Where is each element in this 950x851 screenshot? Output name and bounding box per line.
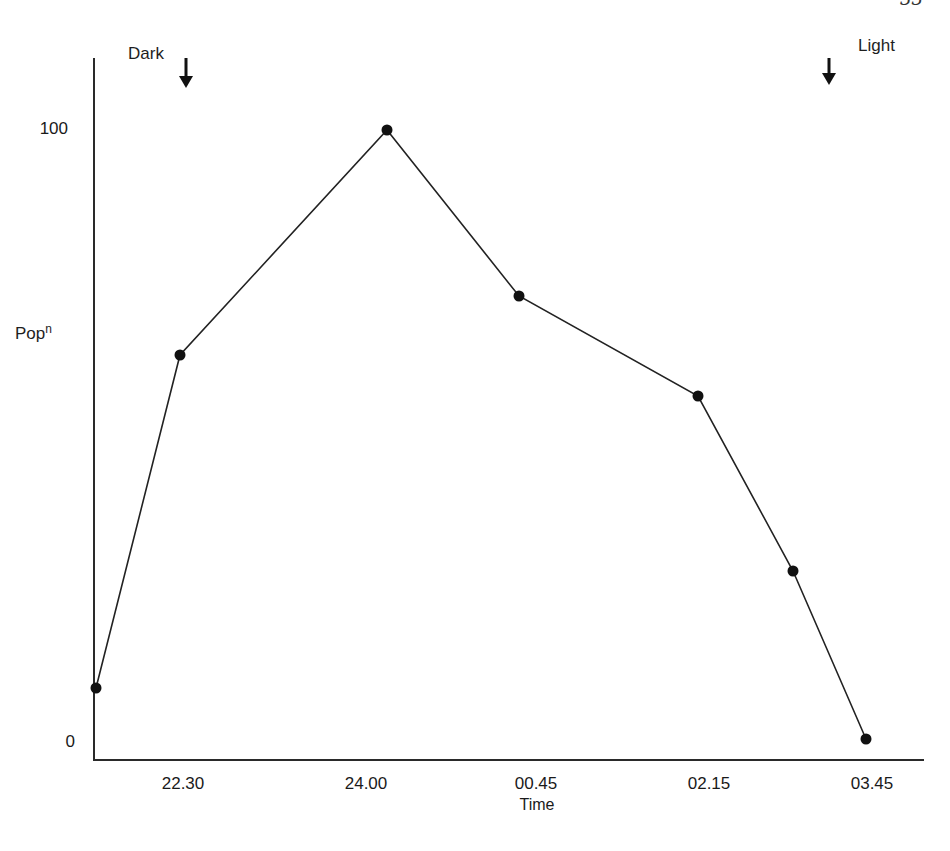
- annotation-dark: Dark: [128, 44, 164, 64]
- x-axis-label: Time: [497, 796, 577, 814]
- x-tick-2230: 22.30: [143, 774, 223, 794]
- dark-arrow-icon: [179, 58, 193, 88]
- data-points: [91, 125, 872, 745]
- x-tick-0215: 02.15: [669, 774, 749, 794]
- x-tick-2400: 24.00: [326, 774, 406, 794]
- y-tick-0: 0: [15, 732, 75, 752]
- data-point: [91, 683, 102, 694]
- y-tick-100: 100: [8, 119, 68, 139]
- y-axis-label: Popn: [15, 322, 52, 344]
- data-point: [175, 350, 186, 361]
- population-line: [96, 130, 866, 739]
- data-point: [382, 125, 393, 136]
- page-number: 33: [900, 0, 923, 9]
- chart-canvas: [0, 0, 950, 851]
- data-point: [861, 734, 872, 745]
- annotation-light: Light: [858, 36, 895, 56]
- x-tick-0345: 03.45: [832, 774, 912, 794]
- data-point: [514, 291, 525, 302]
- light-arrow-icon: [822, 58, 836, 85]
- data-point: [693, 391, 704, 402]
- data-point: [788, 566, 799, 577]
- x-tick-0045: 00.45: [496, 774, 576, 794]
